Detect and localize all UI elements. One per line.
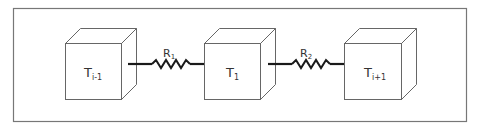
node-cube-next: Ti+1 xyxy=(345,29,417,100)
resistor-zigzag-icon xyxy=(152,60,190,68)
cube-front-face xyxy=(66,44,122,100)
node-cube-prev: Ti-1 xyxy=(66,29,137,100)
resistor-1-link: R1 xyxy=(128,47,204,68)
cube-front-face xyxy=(345,44,402,100)
node-cube-current: T1 xyxy=(205,29,276,100)
resistor-zigzag-icon xyxy=(292,60,330,68)
resistor-label-2: R2 xyxy=(300,47,312,61)
resistor-label-1: R1 xyxy=(163,47,175,61)
resistor-2-link: R2 xyxy=(268,47,344,68)
thermal-network-diagram: Ti-1 R1 T1 R2 Ti+1 xyxy=(0,0,479,131)
